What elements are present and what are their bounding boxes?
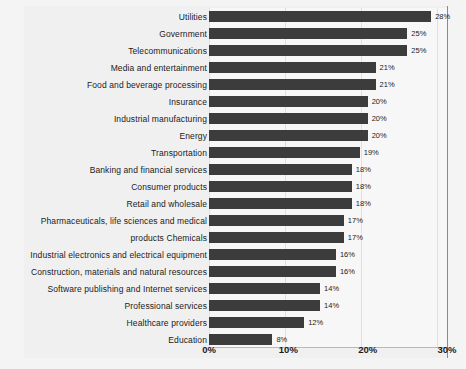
bar <box>209 283 320 294</box>
bar-row: Transportation19% <box>0 144 466 161</box>
bar-value-label: 20% <box>372 96 387 107</box>
category-label: Food and beverage processing <box>7 80 207 90</box>
bar <box>209 215 344 226</box>
bar-group: 21% <box>209 62 395 73</box>
bar <box>209 317 304 328</box>
bar-value-label: 16% <box>340 249 355 260</box>
bar-row: Food and beverage processing21% <box>0 76 466 93</box>
bar-chart: Utilities28%Government25%Telecommunicati… <box>0 0 466 369</box>
bar-group: 20% <box>209 113 387 124</box>
bar-row: Pharmaceuticals, life sciences and medic… <box>0 212 466 229</box>
bar-group: 20% <box>209 130 387 141</box>
bar-value-label: 21% <box>380 62 395 73</box>
bar-row: Media and entertainment21% <box>0 59 466 76</box>
bar <box>209 266 336 277</box>
bar-group: 17% <box>209 232 363 243</box>
bar-value-label: 16% <box>340 266 355 277</box>
bar-group: 20% <box>209 96 387 107</box>
category-label: Industrial manufacturing <box>7 114 207 124</box>
x-tick-label: 0% <box>202 344 216 355</box>
bar <box>209 181 352 192</box>
bar-row: Professional services14% <box>0 297 466 314</box>
bar <box>209 62 376 73</box>
category-label: Insurance <box>7 97 207 107</box>
bar-group: 18% <box>209 198 371 209</box>
bar-row: Consumer products18% <box>0 178 466 195</box>
bar-group: 18% <box>209 164 371 175</box>
bar <box>209 79 376 90</box>
category-label: Consumer products <box>7 182 207 192</box>
bar-value-label: 18% <box>356 198 371 209</box>
bar-group: 25% <box>209 28 426 39</box>
bar-value-label: 25% <box>411 45 426 56</box>
category-label: Government <box>7 29 207 39</box>
x-axis: 0%10%20%30% <box>0 340 466 360</box>
bar-value-label: 14% <box>324 300 339 311</box>
bar-group: 21% <box>209 79 395 90</box>
x-tick-label: 20% <box>358 344 377 355</box>
bar-value-label: 21% <box>380 79 395 90</box>
x-tick-label: 10% <box>279 344 298 355</box>
bar <box>209 11 431 22</box>
bar <box>209 300 320 311</box>
bar-row: Retail and wholesale18% <box>0 195 466 212</box>
bar <box>209 130 368 141</box>
bar-group: 12% <box>209 317 323 328</box>
bar-value-label: 28% <box>435 11 450 22</box>
category-label: products Chemicals <box>7 233 207 243</box>
bar-row: Telecommunications25% <box>0 42 466 59</box>
bar-value-label: 20% <box>372 113 387 124</box>
bar <box>209 232 344 243</box>
category-label: Media and entertainment <box>7 63 207 73</box>
bar-row: products Chemicals17% <box>0 229 466 246</box>
bar-group: 19% <box>209 147 379 158</box>
bar-value-label: 18% <box>356 164 371 175</box>
bar-row: Industrial manufacturing20% <box>0 110 466 127</box>
category-label: Pharmaceuticals, life sciences and medic… <box>7 216 207 226</box>
bar-value-label: 18% <box>356 181 371 192</box>
category-label: Energy <box>7 131 207 141</box>
bar-row: Industrial electronics and electrical eq… <box>0 246 466 263</box>
bar-group: 18% <box>209 181 371 192</box>
bar <box>209 198 352 209</box>
bar-value-label: 17% <box>348 232 363 243</box>
bar-group: 16% <box>209 266 355 277</box>
bar-value-label: 14% <box>324 283 339 294</box>
bar-row: Software publishing and Internet service… <box>0 280 466 297</box>
bar <box>209 113 368 124</box>
bar <box>209 249 336 260</box>
category-label: Telecommunications <box>7 46 207 56</box>
bar-row: Banking and financial services18% <box>0 161 466 178</box>
bar-group: 25% <box>209 45 426 56</box>
bar-rows: Utilities28%Government25%Telecommunicati… <box>0 8 466 348</box>
bar-row: Utilities28% <box>0 8 466 25</box>
category-label: Construction, materials and natural reso… <box>7 267 207 277</box>
bar <box>209 147 360 158</box>
bar-row: Energy20% <box>0 127 466 144</box>
bar-group: 28% <box>209 11 450 22</box>
category-label: Professional services <box>7 301 207 311</box>
bar-row: Insurance20% <box>0 93 466 110</box>
bar-group: 14% <box>209 283 339 294</box>
bar-value-label: 12% <box>308 317 323 328</box>
bar <box>209 96 368 107</box>
bar-group: 17% <box>209 215 363 226</box>
category-label: Industrial electronics and electrical eq… <box>7 250 207 260</box>
category-label: Utilities <box>7 12 207 22</box>
category-label: Banking and financial services <box>7 165 207 175</box>
bar <box>209 45 407 56</box>
bar-group: 14% <box>209 300 339 311</box>
bar-value-label: 19% <box>364 147 379 158</box>
bar <box>209 164 352 175</box>
bar-group: 16% <box>209 249 355 260</box>
category-label: Transportation <box>7 148 207 158</box>
bar-row: Construction, materials and natural reso… <box>0 263 466 280</box>
bar-value-label: 17% <box>348 215 363 226</box>
bar-value-label: 25% <box>411 28 426 39</box>
category-label: Software publishing and Internet service… <box>7 284 207 294</box>
x-tick-label: 30% <box>437 344 456 355</box>
bar <box>209 28 407 39</box>
category-label: Healthcare providers <box>7 318 207 328</box>
bar-row: Healthcare providers12% <box>0 314 466 331</box>
bar-row: Government25% <box>0 25 466 42</box>
